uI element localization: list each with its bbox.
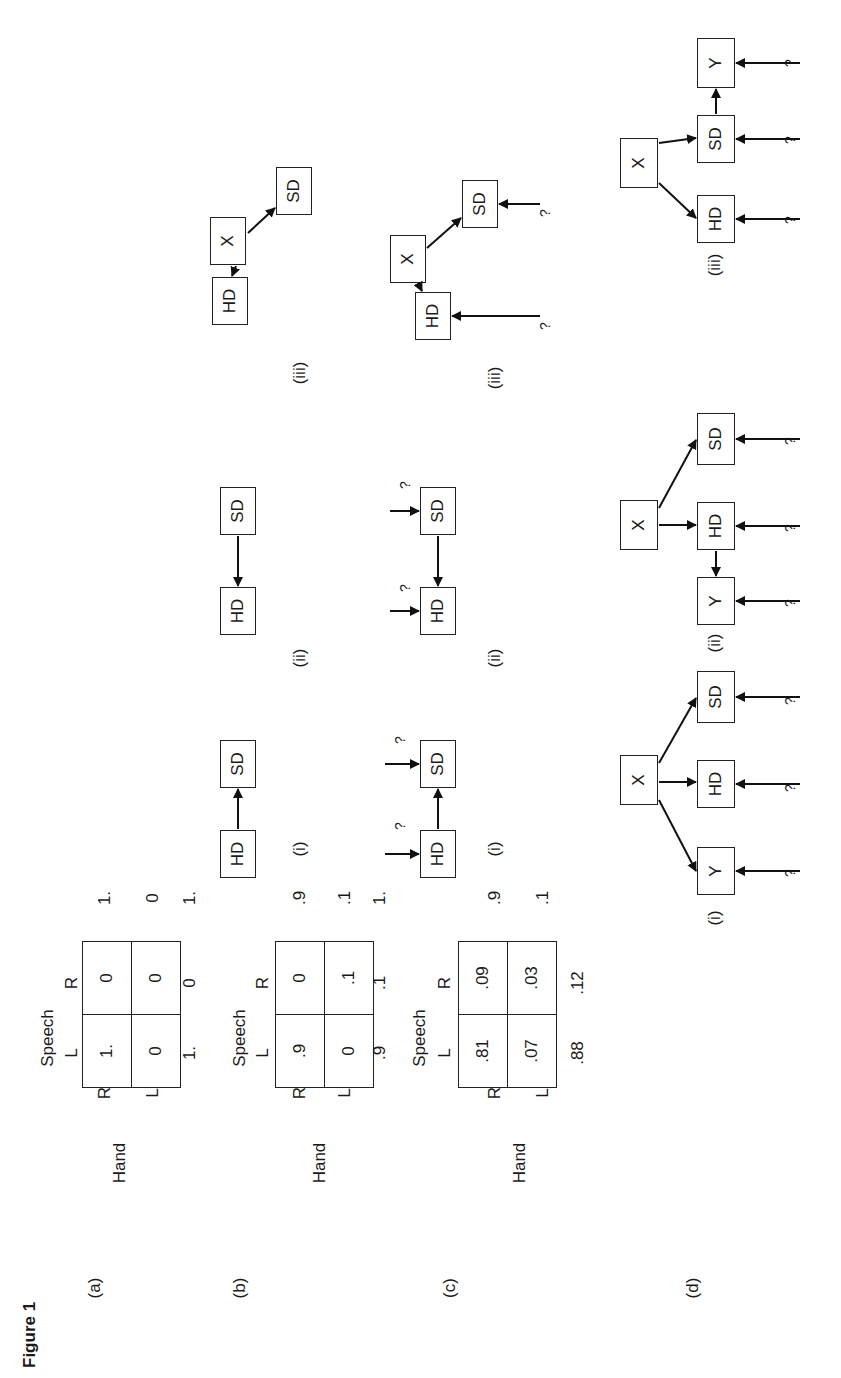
arrow-x-to-y [659, 800, 696, 871]
arrow-x-to-sd [659, 138, 696, 143]
arrow-x-to-hd [232, 266, 236, 276]
arrow-layer [0, 0, 841, 1378]
arrow-x-to-sd [659, 698, 696, 763]
arrow-x-to-hd [418, 283, 422, 291]
arrow-x-to-sd [427, 218, 461, 248]
figure-canvas: (a) (b) (c) (d) Hand R L Speech L R 1.0 … [0, 0, 841, 1378]
arrow-x-to-sd [248, 208, 275, 233]
arrow-x-to-sd [659, 440, 696, 508]
figure-caption: Figure 1 [20, 1302, 40, 1368]
arrow-x-to-hd [659, 183, 696, 218]
